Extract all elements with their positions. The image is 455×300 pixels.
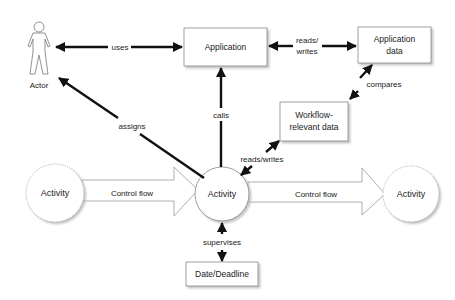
date-deadline-box: Date/Deadline xyxy=(186,262,258,286)
uses-arrow: uses xyxy=(56,43,182,52)
supervises-arrow: supervises xyxy=(203,223,241,261)
compares-label: compares xyxy=(366,80,401,89)
workflow-data-label-line2: relevant data xyxy=(289,122,338,132)
assigns-arrow: assigns xyxy=(59,78,204,178)
control-flow-right-label: Control flow xyxy=(295,190,337,199)
workflow-data-label-line1: Workflow- xyxy=(295,110,333,120)
date-deadline-label: Date/Deadline xyxy=(195,269,249,279)
control-flow-left-label: Control flow xyxy=(111,189,153,198)
application-label: Application xyxy=(205,42,247,52)
reads-writes-app-label-line2: writes xyxy=(296,47,318,56)
workflow-diagram: Actor Application Application data Workf… xyxy=(0,0,455,300)
application-box: Application xyxy=(184,28,267,66)
reads-writes-app-label-line1: reads/ xyxy=(296,36,319,45)
calls-arrow: calls xyxy=(213,68,229,167)
application-data-label-line2: data xyxy=(386,46,403,56)
supervises-label: supervises xyxy=(203,238,241,247)
control-flow-left-arrow: Control flow xyxy=(82,167,198,216)
application-data-box: Application data xyxy=(358,27,431,63)
control-flow-right-arrow: Control flow xyxy=(248,168,385,215)
compares-arrow: compares xyxy=(350,65,402,99)
reads-writes-workflow-arrow: reads/writes xyxy=(240,141,283,175)
activity-left-label: Activity xyxy=(41,188,70,198)
actor-label: Actor xyxy=(30,81,49,90)
activity-right-label: Activity xyxy=(397,189,426,199)
calls-label: calls xyxy=(213,111,229,120)
assigns-label: assigns xyxy=(118,122,145,131)
activity-center-node: Activity xyxy=(195,167,249,221)
workflow-relevant-data-box: Workflow- relevant data xyxy=(280,102,348,141)
activity-center-label: Activity xyxy=(208,189,237,199)
application-data-label-line1: Application xyxy=(374,34,416,44)
activity-left-node: Activity xyxy=(26,164,84,222)
reads-writes-app-arrow: reads/ writes xyxy=(269,36,356,56)
uses-label: uses xyxy=(112,43,129,52)
activity-right-node: Activity xyxy=(383,166,439,222)
reads-writes-workflow-label: reads/writes xyxy=(240,155,283,164)
actor-figure-icon xyxy=(28,22,50,74)
